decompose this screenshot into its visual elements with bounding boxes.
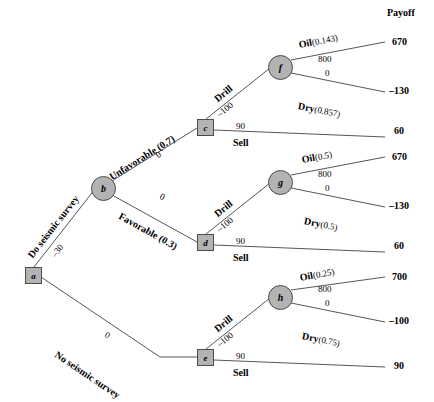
node-h-label: h bbox=[278, 292, 284, 303]
edge-c-to-sell bbox=[214, 130, 385, 137]
node-g-label: g bbox=[278, 177, 283, 188]
edge-value-sell-d: 90 bbox=[236, 237, 245, 246]
payoff-f-oil: 670 bbox=[392, 37, 407, 47]
payoff-h-dry: –100 bbox=[389, 316, 409, 326]
node-b-label: b bbox=[101, 183, 106, 194]
payoff-d-sell: 60 bbox=[394, 241, 404, 251]
payoff-c-sell: 60 bbox=[394, 126, 404, 136]
node-a-label: a bbox=[31, 271, 36, 281]
payoff-column-header: Payoff bbox=[387, 8, 415, 18]
edge-g-dry bbox=[291, 188, 385, 207]
chance-value-dry-g: 0 bbox=[325, 184, 330, 193]
edge-value-sell-c: 90 bbox=[236, 122, 245, 131]
node-a[interactable]: a bbox=[25, 267, 42, 284]
node-f[interactable]: f bbox=[268, 55, 293, 80]
node-d[interactable]: d bbox=[197, 234, 214, 251]
edge-h-dry bbox=[291, 303, 385, 322]
edge-value-sell-e: 90 bbox=[236, 352, 245, 361]
edge-label-sell-e: Sell bbox=[233, 368, 249, 378]
payoff-g-dry: –130 bbox=[389, 201, 409, 211]
chance-value-dry-f: 0 bbox=[325, 69, 330, 78]
oil-prob-g: (0.5) bbox=[314, 149, 333, 162]
payoff-g-oil: 670 bbox=[392, 152, 407, 162]
edge-label-sell-d: Sell bbox=[233, 253, 249, 263]
node-d-label: d bbox=[203, 238, 208, 248]
dry-prob-g: (0.5) bbox=[320, 219, 339, 232]
edge-a-to-b bbox=[34, 189, 95, 267]
payoff-e-sell: 90 bbox=[394, 361, 404, 371]
chance-value-oil-g: 800 bbox=[318, 170, 332, 179]
chance-value-dry-h: 0 bbox=[325, 299, 330, 308]
edge-f-dry bbox=[291, 73, 385, 92]
node-e[interactable]: e bbox=[197, 349, 214, 366]
node-c[interactable]: c bbox=[197, 119, 214, 136]
edge-e-to-sell bbox=[214, 360, 385, 367]
node-e-label: e bbox=[204, 353, 208, 363]
edge-d-to-sell bbox=[214, 245, 385, 252]
chance-value-oil-h: 800 bbox=[318, 285, 332, 294]
node-g[interactable]: g bbox=[268, 170, 293, 195]
node-h[interactable]: h bbox=[268, 285, 293, 310]
chance-value-oil-f: 800 bbox=[318, 55, 332, 64]
payoff-h-oil: 700 bbox=[392, 272, 407, 282]
node-f-label: f bbox=[279, 62, 282, 73]
edge-label-sell-c: Sell bbox=[233, 138, 249, 148]
payoff-f-dry: –130 bbox=[389, 86, 409, 96]
node-c-label: c bbox=[204, 123, 208, 133]
edge-a-to-e bbox=[41, 277, 197, 357]
